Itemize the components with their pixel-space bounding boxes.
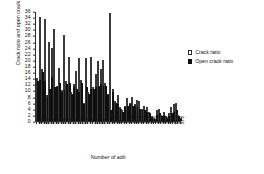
legend-item-crack-ratio: Crack ratio bbox=[188, 48, 233, 57]
chart-legend: Crack ratio Open crack ratio bbox=[188, 48, 233, 66]
y-tick-label: 22 bbox=[25, 52, 31, 57]
legend-label-crack-ratio: Crack ratio bbox=[195, 48, 220, 57]
y-tick-label: 28 bbox=[25, 34, 31, 39]
y-tick-label: 30 bbox=[25, 28, 31, 33]
y-tick-label: 26 bbox=[25, 40, 31, 45]
y-tick-label: 16 bbox=[25, 71, 31, 76]
y-tick-label: 36 bbox=[25, 9, 31, 14]
x-tick-label: 22-1 bbox=[181, 116, 185, 124]
y-tick-label: 14 bbox=[25, 77, 31, 82]
legend-swatch-crack-ratio bbox=[188, 50, 192, 54]
chart-figure: Crack ratio and open crack ratio 0246810… bbox=[0, 0, 264, 174]
x-axis-title: Number of adit bbox=[35, 154, 181, 160]
plot-area bbox=[35, 12, 181, 122]
bar-group bbox=[180, 12, 182, 121]
y-tick-label: 6 bbox=[28, 101, 31, 106]
y-tick-label: 18 bbox=[25, 64, 31, 69]
y-tick-label: 8 bbox=[28, 95, 31, 100]
legend-label-open-crack-ratio: Open crack ratio bbox=[195, 57, 233, 66]
y-tick-label: 10 bbox=[25, 89, 31, 94]
y-tick-label: 34 bbox=[25, 16, 31, 21]
y-tick-label: 12 bbox=[25, 83, 31, 88]
y-tick-label: 0 bbox=[28, 119, 31, 124]
x-axis-tick-labels: 1-11-22-12-22-32-43-13-23-34-14-24-34-45… bbox=[35, 124, 181, 152]
bar-series-container bbox=[36, 12, 181, 121]
y-tick-label: 4 bbox=[28, 107, 31, 112]
y-tick-label: 24 bbox=[25, 46, 31, 51]
legend-item-open-crack-ratio: Open crack ratio bbox=[188, 57, 233, 66]
legend-swatch-open-crack-ratio bbox=[188, 59, 192, 63]
y-axis-ticks: 024681012141618202224262830323436 bbox=[0, 12, 35, 122]
y-tick-label: 20 bbox=[25, 58, 31, 63]
y-tick-label: 2 bbox=[28, 113, 31, 118]
y-tick-label: 32 bbox=[25, 22, 31, 27]
